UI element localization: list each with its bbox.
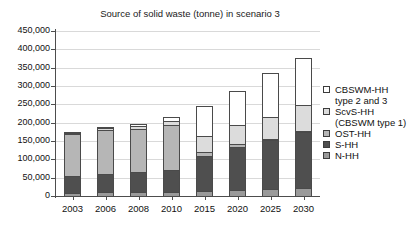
x-tick-mark (238, 196, 239, 200)
legend-item[interactable]: S-HH (323, 139, 418, 150)
y-tick-label: 300,000 (0, 81, 50, 90)
bar-segment-cbswm[interactable] (229, 91, 246, 126)
bar-segment-shh[interactable] (163, 170, 180, 193)
x-tick-label: 2030 (287, 203, 320, 214)
legend-label: S-HH (335, 139, 418, 150)
x-tick-label: 2006 (89, 203, 122, 214)
bar-segment-scvs[interactable] (262, 117, 279, 140)
y-tick-label: 150,000 (0, 136, 50, 145)
bar-stack[interactable] (97, 127, 114, 196)
legend-label: N-HH (335, 150, 418, 161)
x-tick-mark (139, 196, 140, 200)
gridline (56, 68, 320, 69)
chart-legend: CBSWM-HHtype 2 and 3ScvS-HH(CBSWM type 1… (323, 84, 418, 161)
bar-segment-cbswm[interactable] (295, 58, 312, 106)
x-tick-label: 2003 (56, 203, 89, 214)
bar-segment-shh[interactable] (130, 172, 147, 193)
bar-segment-shh[interactable] (196, 156, 213, 192)
x-tick-label: 2020 (221, 203, 254, 214)
gridline (56, 159, 320, 160)
bar-stack[interactable] (64, 132, 81, 196)
y-tick-label: 250,000 (0, 99, 50, 108)
gridline (56, 178, 320, 179)
bar-segment-cbswm[interactable] (262, 73, 279, 118)
y-tick-label: 100,000 (0, 154, 50, 163)
y-tick-mark (51, 123, 56, 124)
x-tick-label: 2008 (122, 203, 155, 214)
y-tick-label: 0 (0, 191, 50, 200)
y-tick-label: 200,000 (0, 118, 50, 127)
legend-swatch-icon (323, 86, 330, 93)
legend-swatch-icon (323, 130, 330, 137)
bar-stack[interactable] (262, 73, 279, 196)
x-tick-mark (172, 196, 173, 200)
bar-segment-shh[interactable] (97, 174, 114, 193)
legend-label: OST-HH (335, 128, 418, 139)
y-tick-mark (51, 68, 56, 69)
bar-stack[interactable] (295, 58, 312, 196)
gridline (56, 86, 320, 87)
x-tick-mark (106, 196, 107, 200)
x-tick-mark (271, 196, 272, 200)
legend-item[interactable]: CBSWM-HHtype 2 and 3 (323, 84, 418, 106)
chart-container: Source of solid waste (tonne) in scenari… (0, 0, 418, 229)
bar-segment-shh[interactable] (229, 147, 246, 191)
gridline (56, 141, 320, 142)
gridline (56, 104, 320, 105)
bar-segment-shh[interactable] (295, 132, 312, 189)
bar-segment-ost[interactable] (97, 130, 114, 175)
y-tick-mark (51, 159, 56, 160)
x-tick-label: 2015 (188, 203, 221, 214)
bar-segment-scvs[interactable] (196, 136, 213, 154)
x-tick-mark (73, 196, 74, 200)
y-tick-label: 50,000 (0, 173, 50, 182)
x-tick-mark (205, 196, 206, 200)
bar-segment-cbswm[interactable] (196, 106, 213, 137)
bar-segment-scvs[interactable] (295, 105, 312, 131)
bar-segment-scvs[interactable] (229, 125, 246, 145)
chart-title: Source of solid waste (tonne) in scenari… (60, 8, 320, 19)
bar-segment-shh[interactable] (64, 176, 81, 194)
bar-stack[interactable] (229, 91, 246, 196)
legend-item[interactable]: N-HH (323, 150, 418, 161)
y-tick-label: 400,000 (0, 44, 50, 53)
gridline (56, 49, 320, 50)
y-tick-mark (51, 104, 56, 105)
y-tick-mark (51, 141, 56, 142)
bar-segment-ost[interactable] (64, 134, 81, 177)
y-tick-mark (51, 178, 56, 179)
plot-area (56, 31, 320, 196)
bar-segment-ost[interactable] (130, 129, 147, 173)
bar-segment-ost[interactable] (163, 125, 180, 170)
x-tick-label: 2025 (254, 203, 287, 214)
legend-item[interactable]: OST-HH (323, 128, 418, 139)
legend-label: ScvS-HH (335, 106, 418, 117)
legend-label: CBSWM-HH (335, 84, 418, 95)
y-tick-mark (51, 49, 56, 50)
x-tick-label: 2010 (155, 203, 188, 214)
x-tick-mark (304, 196, 305, 200)
bar-segment-shh[interactable] (262, 140, 279, 190)
legend-swatch-icon (323, 141, 330, 148)
gridline (56, 31, 320, 32)
legend-label-continuation: type 2 and 3 (335, 95, 418, 106)
y-tick-mark (51, 31, 56, 32)
y-tick-mark (51, 196, 56, 197)
legend-swatch-icon (323, 108, 330, 115)
legend-item[interactable]: ScvS-HH(CBSWM type 1) (323, 106, 418, 128)
legend-swatch-icon (323, 152, 330, 159)
y-tick-label: 350,000 (0, 63, 50, 72)
bar-stack[interactable] (196, 106, 213, 196)
y-axis-labels: 050,000100,000150,000200,000250,000300,0… (0, 0, 50, 229)
y-tick-label: 450,000 (0, 26, 50, 35)
bar-stack[interactable] (130, 124, 147, 196)
legend-label-continuation: (CBSWM type 1) (335, 117, 418, 128)
bar-stack[interactable] (163, 117, 180, 196)
x-axis-line (55, 196, 320, 197)
gridline (56, 123, 320, 124)
y-tick-mark (51, 86, 56, 87)
